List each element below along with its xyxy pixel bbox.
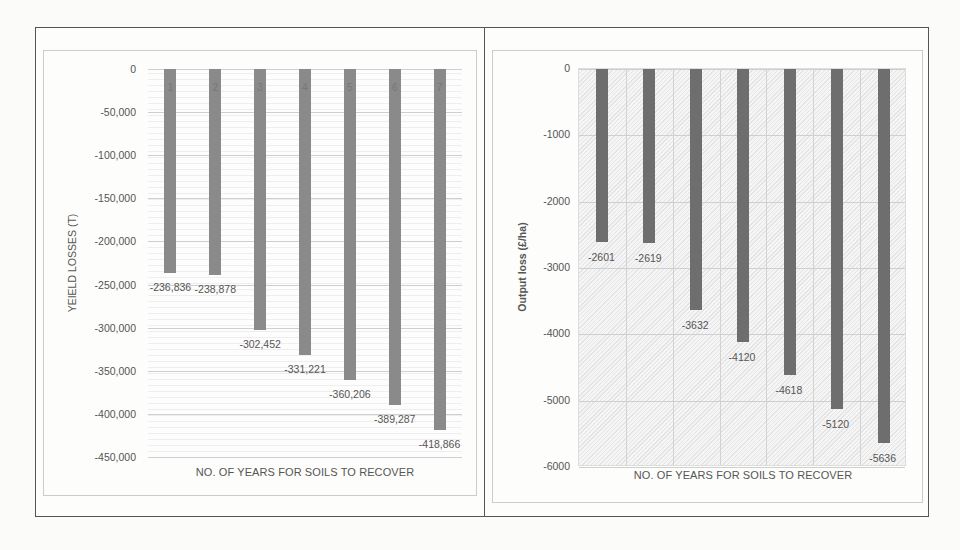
yield-losses-y-axis-title: YEIELD LOSSES (T) bbox=[66, 214, 78, 313]
y-tick-label: 0 bbox=[490, 62, 570, 74]
category-label: 1 bbox=[168, 82, 174, 94]
category-label: 5 bbox=[347, 82, 353, 94]
data-label: -302,452 bbox=[239, 338, 280, 350]
data-label: -4120 bbox=[729, 351, 756, 363]
y-tick-label: -400,000 bbox=[56, 408, 136, 420]
vertical-gridline bbox=[626, 69, 627, 465]
data-label: -5636 bbox=[869, 452, 896, 464]
gridline bbox=[579, 467, 905, 468]
vertical-gridline bbox=[766, 69, 767, 465]
data-label: -360,206 bbox=[329, 388, 370, 400]
bar-year-1 bbox=[164, 69, 176, 273]
y-tick-label: -3000 bbox=[490, 261, 570, 273]
y-tick-label: -250,000 bbox=[56, 279, 136, 291]
data-label: -389,287 bbox=[374, 413, 415, 425]
yield-losses-plot-area bbox=[148, 69, 462, 457]
data-label: -5120 bbox=[822, 418, 849, 430]
bar-year-7 bbox=[878, 69, 890, 443]
output-loss-plot-area bbox=[578, 68, 906, 466]
data-label: -236,836 bbox=[150, 281, 191, 293]
y-tick-label: -100,000 bbox=[56, 149, 136, 161]
vertical-gridline bbox=[720, 69, 721, 465]
bar-year-4 bbox=[737, 69, 749, 342]
vertical-gridline bbox=[813, 69, 814, 465]
bar-year-2 bbox=[209, 69, 221, 275]
bar-year-5 bbox=[344, 69, 356, 380]
y-tick-label: -200,000 bbox=[56, 235, 136, 247]
bar-year-6 bbox=[389, 69, 401, 405]
y-tick-label: -4000 bbox=[490, 327, 570, 339]
data-label: -4618 bbox=[775, 384, 802, 396]
category-label: 3 bbox=[257, 82, 263, 94]
y-tick-label: 0 bbox=[56, 63, 136, 75]
y-tick-label: -6000 bbox=[490, 460, 570, 472]
bar-year-1 bbox=[596, 69, 608, 242]
category-label: 7 bbox=[437, 82, 443, 94]
bar-year-2 bbox=[643, 69, 655, 243]
y-tick-label: -2000 bbox=[490, 195, 570, 207]
data-label: -418,866 bbox=[419, 438, 460, 450]
gridline bbox=[148, 457, 462, 458]
category-label: 4 bbox=[302, 82, 308, 94]
data-label: -331,221 bbox=[284, 363, 325, 375]
data-label: -2619 bbox=[635, 252, 662, 264]
data-label: -3632 bbox=[682, 319, 709, 331]
bar-year-3 bbox=[690, 69, 702, 310]
y-tick-label: -50,000 bbox=[56, 106, 136, 118]
gridline bbox=[579, 401, 905, 402]
y-tick-label: -450,000 bbox=[56, 451, 136, 463]
panel-divider bbox=[484, 27, 485, 517]
bar-year-3 bbox=[254, 69, 266, 330]
y-tick-label: -5000 bbox=[490, 394, 570, 406]
yield-losses-x-axis-title: NO. OF YEARS FOR SOILS TO RECOVER bbox=[196, 466, 414, 478]
y-tick-label: -150,000 bbox=[56, 192, 136, 204]
data-label: -238,878 bbox=[195, 283, 236, 295]
bar-year-5 bbox=[784, 69, 796, 375]
bar-year-4 bbox=[299, 69, 311, 355]
y-tick-label: -350,000 bbox=[56, 365, 136, 377]
y-tick-label: -300,000 bbox=[56, 322, 136, 334]
data-label: -2601 bbox=[588, 251, 615, 263]
bar-year-7 bbox=[434, 69, 446, 430]
category-label: 2 bbox=[213, 82, 219, 94]
vertical-gridline bbox=[673, 69, 674, 465]
vertical-gridline bbox=[860, 69, 861, 465]
category-label: 6 bbox=[392, 82, 398, 94]
bar-year-6 bbox=[831, 69, 843, 409]
output-loss-x-axis-title: NO. OF YEARS FOR SOILS TO RECOVER bbox=[634, 469, 852, 481]
y-tick-label: -1000 bbox=[490, 128, 570, 140]
